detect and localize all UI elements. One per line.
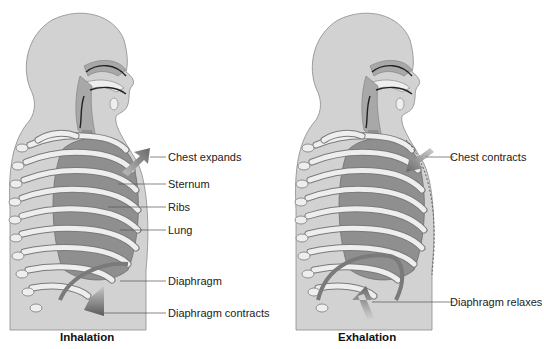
inhalation-figure bbox=[9, 13, 166, 330]
label-chest-contracts: Chest contracts bbox=[450, 151, 526, 163]
label-chest-expands: Chest expands bbox=[168, 151, 241, 163]
label-lung: Lung bbox=[168, 224, 192, 236]
label-diaphragm-relaxes: Diaphragm relaxes bbox=[450, 296, 542, 308]
caption-inhalation: Inhalation bbox=[60, 331, 114, 343]
caption-exhalation: Exhalation bbox=[338, 331, 396, 343]
label-ribs: Ribs bbox=[168, 201, 190, 213]
label-diaphragm-contracts: Diaphragm contracts bbox=[168, 307, 270, 319]
label-diaphragm: Diaphragm bbox=[168, 275, 222, 287]
exhalation-figure bbox=[295, 13, 454, 330]
label-sternum: Sternum bbox=[168, 178, 210, 190]
